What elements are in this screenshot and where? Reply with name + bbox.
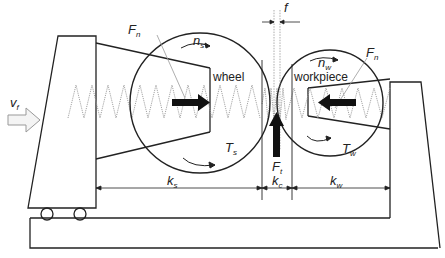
- svg-text:vf: vf: [10, 95, 20, 112]
- svg-text:Ts: Ts: [225, 140, 237, 157]
- svg-text:ns: ns: [193, 33, 204, 50]
- stiffness-dimensions: [96, 186, 390, 190]
- wheel-head-carriage: [28, 36, 210, 220]
- svg-text:kw: kw: [330, 173, 344, 190]
- arrow-right-icon: [198, 94, 210, 111]
- grinding-diagram: vf Fn ns wheel Ts f nw workpiece Fn Tw F…: [0, 0, 445, 258]
- fn-line-wheel: [157, 35, 185, 98]
- labels: vf Fn ns wheel Ts f nw workpiece Fn Tw F…: [10, 0, 379, 190]
- ns-label: n: [193, 33, 200, 48]
- feed-arrow-icon: [8, 108, 40, 132]
- gap-dimension: [262, 20, 300, 24]
- arrow-left-icon: [318, 94, 330, 111]
- workpiece-label: workpiece: [293, 70, 348, 84]
- arrow-up-icon: [269, 112, 284, 126]
- wheel-label: wheel: [212, 70, 244, 84]
- svg-text:Fn: Fn: [366, 45, 379, 62]
- machine-bed: [30, 82, 440, 248]
- svg-text:Tw: Tw: [342, 141, 357, 158]
- svg-text:ks: ks: [167, 173, 178, 190]
- gap-label: f: [284, 0, 289, 15]
- svg-text:Fn: Fn: [128, 22, 141, 39]
- wheel-spring: [68, 85, 260, 118]
- nw-label: n: [318, 55, 325, 70]
- contact-spring: [262, 88, 286, 120]
- force-arrows: [172, 94, 356, 157]
